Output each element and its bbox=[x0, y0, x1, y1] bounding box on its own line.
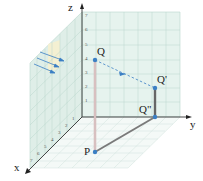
z-tick: 3 bbox=[85, 70, 88, 75]
coordinate-diagram bbox=[0, 0, 203, 181]
label-p: P bbox=[84, 146, 90, 157]
z-tick: 2 bbox=[85, 84, 88, 89]
point-q-prime bbox=[153, 86, 157, 90]
z-tick: 1 bbox=[85, 98, 88, 103]
z-tick: 4 bbox=[85, 56, 88, 61]
z-axis-arrow-icon bbox=[80, 3, 84, 9]
z-tick: 5 bbox=[85, 42, 88, 47]
point-p bbox=[93, 150, 97, 154]
y-axis-label: y bbox=[190, 119, 196, 130]
label-q: Q bbox=[97, 46, 105, 57]
point-q bbox=[93, 58, 97, 62]
x-tick: 4 bbox=[51, 137, 54, 142]
label-q-prime: Q' bbox=[157, 74, 167, 85]
x-tick: 7 bbox=[30, 158, 33, 163]
label-q-double-prime: Q" bbox=[139, 104, 151, 115]
x-tick: 2 bbox=[65, 123, 68, 128]
z-tick: 7 bbox=[85, 13, 88, 18]
x-axis-label: x bbox=[14, 162, 20, 173]
x-tick: 3 bbox=[58, 130, 61, 135]
x-tick: 6 bbox=[37, 151, 40, 156]
x-tick: 5 bbox=[44, 144, 47, 149]
z-axis-label: z bbox=[68, 2, 73, 13]
diagram-canvas: z y x 1 2 3 4 5 6 7 1 2 3 4 5 6 7 Q Q' Q… bbox=[0, 0, 203, 181]
yz-plane bbox=[82, 12, 180, 117]
z-tick: 6 bbox=[85, 27, 88, 32]
x-tick: 1 bbox=[72, 116, 75, 121]
point-q-double-prime bbox=[153, 115, 157, 119]
